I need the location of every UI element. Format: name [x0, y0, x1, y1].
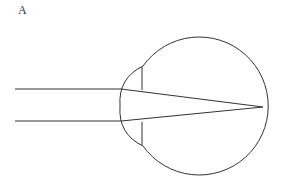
eyeball-outline: [143, 37, 268, 175]
refracted-ray-top: [121, 89, 263, 107]
cornea-outline: [120, 66, 143, 146]
eye-diagram: [0, 0, 282, 193]
refracted-ray-bottom: [121, 107, 263, 121]
